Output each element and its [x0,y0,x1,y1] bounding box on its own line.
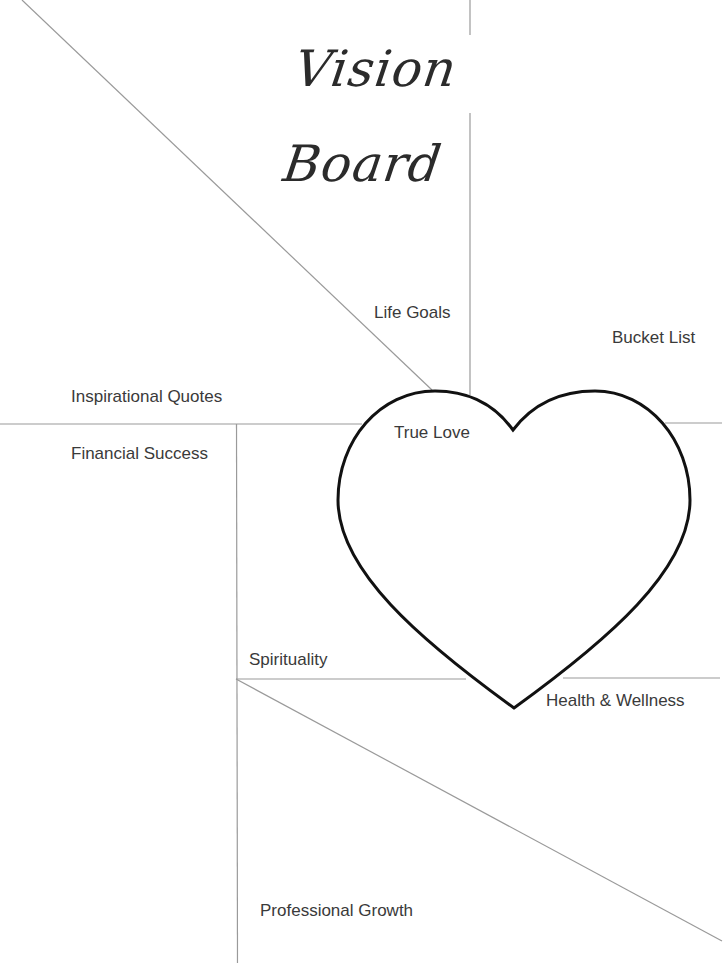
section-label-financial-success: Financial Success [71,444,208,464]
section-label-life-goals: Life Goals [374,303,451,323]
section-label-spirituality: Spirituality [249,650,327,670]
section-label-inspirational-quotes: Inspirational Quotes [71,387,222,407]
section-label-bucket-list: Bucket List [612,328,695,348]
page-title: Vision Board [229,22,522,117]
vision-board-page: Vision Board Life Goals Bucket List Insp… [0,0,724,963]
vertical-divider-left [237,424,238,963]
section-label-true-love: True Love [394,423,470,443]
section-label-health-wellness: Health & Wellness [546,691,685,711]
heart-shape [338,391,690,708]
section-label-professional-growth: Professional Growth [260,901,413,921]
